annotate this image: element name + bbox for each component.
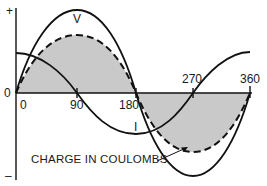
- ac-waveform-diagram: + – 0 0 90 180 270 360 V I CHARGE IN COU…: [0, 0, 267, 186]
- current-label: I: [134, 121, 137, 133]
- y-zero-label: 0: [4, 87, 11, 99]
- y-minus-label: –: [5, 170, 12, 182]
- x-tick-label-270: 270: [182, 73, 202, 85]
- charge-shaded-negative: [136, 93, 250, 152]
- charge-annotation: CHARGE IN COULOMBS: [31, 154, 168, 166]
- x-tick-label-180: 180: [119, 99, 139, 111]
- y-plus-label: +: [6, 5, 13, 17]
- x-tick-label-360: 360: [240, 73, 260, 85]
- x-tick-label-0: 0: [20, 99, 27, 111]
- voltage-label: V: [73, 13, 81, 25]
- x-tick-label-90: 90: [70, 99, 83, 111]
- charge-shaded-positive: [16, 35, 136, 93]
